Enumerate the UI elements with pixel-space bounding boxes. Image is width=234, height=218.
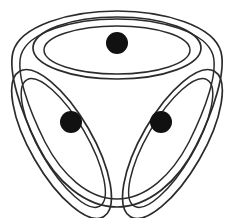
petal-lower-left <box>104 56 234 218</box>
petal-lower-right <box>0 56 130 218</box>
node-lower-right <box>150 111 172 133</box>
node-lower-left <box>60 111 82 133</box>
petal-lower-left-inner-loop <box>113 68 228 218</box>
petal-lower-left-outer-loop <box>104 56 234 218</box>
petal-lower-right-outer-loop <box>0 56 130 218</box>
trefoil-knot-diagram <box>0 0 234 218</box>
figure-canvas <box>0 0 234 218</box>
node-top <box>106 32 128 54</box>
petal-lower-right-inner-loop <box>6 68 121 218</box>
